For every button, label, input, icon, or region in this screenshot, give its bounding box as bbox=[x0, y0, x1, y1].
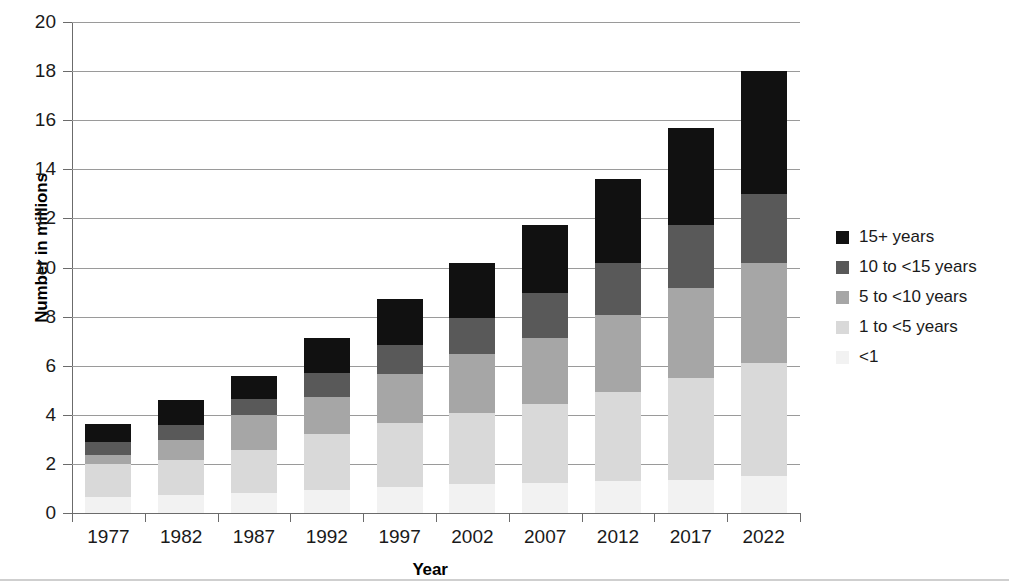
bar-segment bbox=[304, 338, 350, 373]
bar-segment bbox=[449, 263, 495, 318]
y-axis-title: Number in millions bbox=[32, 118, 52, 378]
x-axis-tick bbox=[218, 513, 219, 522]
bar-segment bbox=[449, 484, 495, 513]
bar-segment bbox=[741, 263, 787, 364]
bar-segment bbox=[304, 490, 350, 513]
bar-segment bbox=[158, 495, 204, 513]
y-axis-tick-label: 20 bbox=[35, 11, 56, 33]
y-axis-tick bbox=[63, 415, 72, 416]
y-axis-tick bbox=[63, 120, 72, 121]
x-axis-tick bbox=[436, 513, 437, 522]
bar-segment bbox=[449, 413, 495, 484]
bar-2012[interactable] bbox=[595, 179, 641, 513]
bar-segment bbox=[377, 345, 423, 374]
bar-segment bbox=[741, 476, 787, 513]
bar-segment bbox=[668, 128, 714, 225]
legend-swatch-icon bbox=[836, 291, 849, 304]
bar-segment bbox=[595, 263, 641, 315]
legend-item[interactable]: 15+ years bbox=[836, 222, 977, 252]
bar-segment bbox=[668, 225, 714, 288]
bar-segment bbox=[595, 392, 641, 481]
y-axis-tick-label: 8 bbox=[45, 306, 56, 328]
y-axis-tick-label: 14 bbox=[35, 158, 56, 180]
bar-2017[interactable] bbox=[668, 128, 714, 513]
legend-label: 1 to <5 years bbox=[859, 317, 958, 337]
x-axis-tick bbox=[290, 513, 291, 522]
x-axis-tick bbox=[654, 513, 655, 522]
x-axis-tick bbox=[72, 513, 73, 522]
legend-label: <1 bbox=[859, 347, 878, 367]
y-axis-tick-label: 6 bbox=[45, 355, 56, 377]
y-axis-tick bbox=[63, 513, 72, 514]
y-axis-tick bbox=[63, 71, 72, 72]
bar-segment bbox=[741, 194, 787, 263]
x-axis-tick bbox=[145, 513, 146, 522]
bar-segment bbox=[449, 354, 495, 413]
x-axis-tick bbox=[363, 513, 364, 522]
plot-area: 02468101214161820 bbox=[72, 22, 800, 513]
legend-item[interactable]: <1 bbox=[836, 342, 977, 372]
bar-segment bbox=[231, 376, 277, 399]
y-axis-tick bbox=[63, 317, 72, 318]
y-axis-tick-label: 12 bbox=[35, 207, 56, 229]
bar-segment bbox=[85, 424, 131, 442]
legend-swatch-icon bbox=[836, 261, 849, 274]
y-axis-tick-label: 16 bbox=[35, 109, 56, 131]
legend-label: 15+ years bbox=[859, 227, 934, 247]
bar-segment bbox=[741, 71, 787, 194]
y-axis-tick bbox=[63, 169, 72, 170]
y-axis-tick-label: 10 bbox=[35, 257, 56, 279]
stacked-bar-chart: Number in millions 02468101214161820 197… bbox=[0, 0, 1009, 581]
bar-segment bbox=[522, 483, 568, 513]
legend-label: 10 to <15 years bbox=[859, 257, 977, 277]
legend: 15+ years10 to <15 years5 to <10 years1 … bbox=[836, 222, 977, 372]
bar-1982[interactable] bbox=[158, 400, 204, 513]
bar-segment bbox=[85, 497, 131, 513]
bar-segment bbox=[377, 423, 423, 487]
legend-swatch-icon bbox=[836, 321, 849, 334]
legend-item[interactable]: 10 to <15 years bbox=[836, 252, 977, 282]
bar-1992[interactable] bbox=[304, 338, 350, 513]
y-axis-tick bbox=[63, 366, 72, 367]
legend-item[interactable]: 1 to <5 years bbox=[836, 312, 977, 342]
x-axis-tick bbox=[582, 513, 583, 522]
bar-segment bbox=[377, 374, 423, 423]
x-axis-tick bbox=[800, 513, 801, 522]
legend-swatch-icon bbox=[836, 351, 849, 364]
bar-segment bbox=[158, 440, 204, 460]
bar-segment bbox=[668, 378, 714, 480]
gridline bbox=[72, 120, 800, 121]
legend-item[interactable]: 5 to <10 years bbox=[836, 282, 977, 312]
y-axis-tick-label: 2 bbox=[45, 453, 56, 475]
gridline bbox=[72, 71, 800, 72]
y-axis-tick-label: 18 bbox=[35, 60, 56, 82]
bar-segment bbox=[158, 460, 204, 495]
y-axis-tick bbox=[63, 22, 72, 23]
bar-segment bbox=[522, 293, 568, 338]
bar-segment bbox=[595, 315, 641, 392]
bar-segment bbox=[231, 450, 277, 493]
bar-1997[interactable] bbox=[377, 299, 423, 513]
bar-segment bbox=[522, 404, 568, 483]
bar-1977[interactable] bbox=[85, 424, 131, 513]
bar-segment bbox=[85, 455, 131, 464]
bar-segment bbox=[522, 338, 568, 404]
bar-segment bbox=[231, 493, 277, 513]
y-axis-tick-label: 4 bbox=[45, 404, 56, 426]
bar-segment bbox=[741, 363, 787, 475]
x-axis-tick bbox=[509, 513, 510, 522]
y-axis-tick-label: 0 bbox=[45, 502, 56, 524]
bar-2022[interactable] bbox=[741, 71, 787, 513]
bar-segment bbox=[85, 464, 131, 497]
bar-segment bbox=[231, 399, 277, 415]
y-axis-tick bbox=[63, 464, 72, 465]
bar-1987[interactable] bbox=[231, 376, 277, 513]
bar-segment bbox=[377, 299, 423, 345]
bar-segment bbox=[595, 179, 641, 263]
legend-label: 5 to <10 years bbox=[859, 287, 967, 307]
bar-2002[interactable] bbox=[449, 263, 495, 513]
bar-2007[interactable] bbox=[522, 225, 568, 513]
bar-segment bbox=[377, 487, 423, 513]
gridline bbox=[72, 22, 800, 23]
bar-segment bbox=[668, 480, 714, 513]
